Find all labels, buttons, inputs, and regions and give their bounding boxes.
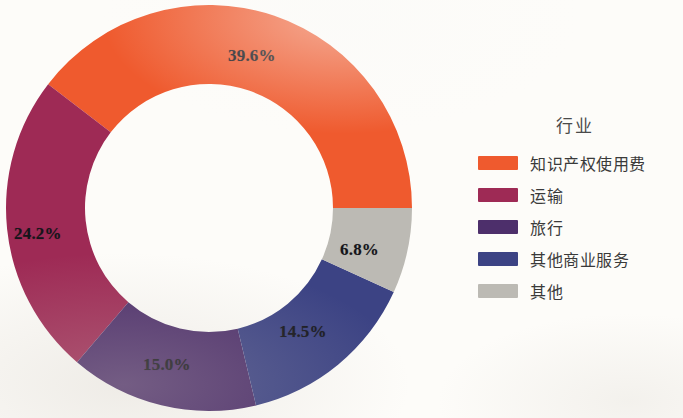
slice-percent-label-travel: 15.0% [143,355,191,375]
legend-swatch-travel [478,220,518,234]
legend-label-transport: 运输 [530,183,563,207]
legend-label-other: 其他 [530,279,563,303]
legend-label-other-business-services: 其他商业服务 [530,247,629,271]
legend-item-list: 知识产权使用费运输旅行其他商业服务其他 [478,149,678,305]
legend-label-travel: 旅行 [530,215,563,239]
slice-percent-label-ip-royalties: 39.6% [228,46,276,66]
chart-page: 39.6%24.2%15.0%14.5%6.8% 行业 知识产权使用费运输旅行其… [0,0,683,418]
legend-swatch-ip-royalties [478,156,518,170]
donut-chart-svg [0,0,440,418]
donut-slice-ip-royalties[interactable] [48,5,412,208]
legend-swatch-other [478,284,518,298]
slice-percent-label-other: 6.8% [340,240,379,260]
legend-item-other-business-services[interactable]: 其他商业服务 [478,245,678,273]
donut-slice-group [6,5,412,411]
legend-item-travel[interactable]: 旅行 [478,213,678,241]
chart-legend: 行业 知识产权使用费运输旅行其他商业服务其他 [478,112,678,309]
legend-swatch-transport [478,188,518,202]
legend-item-transport[interactable]: 运输 [478,181,678,209]
legend-swatch-other-business-services [478,252,518,266]
donut-chart: 39.6%24.2%15.0%14.5%6.8% [0,0,440,418]
slice-percent-label-transport: 24.2% [14,224,62,244]
legend-item-ip-royalties[interactable]: 知识产权使用费 [478,149,678,177]
legend-title: 行业 [556,112,678,137]
legend-label-ip-royalties: 知识产权使用费 [530,151,646,175]
slice-percent-label-other-business-services: 14.5% [279,322,327,342]
legend-item-other[interactable]: 其他 [478,277,678,305]
